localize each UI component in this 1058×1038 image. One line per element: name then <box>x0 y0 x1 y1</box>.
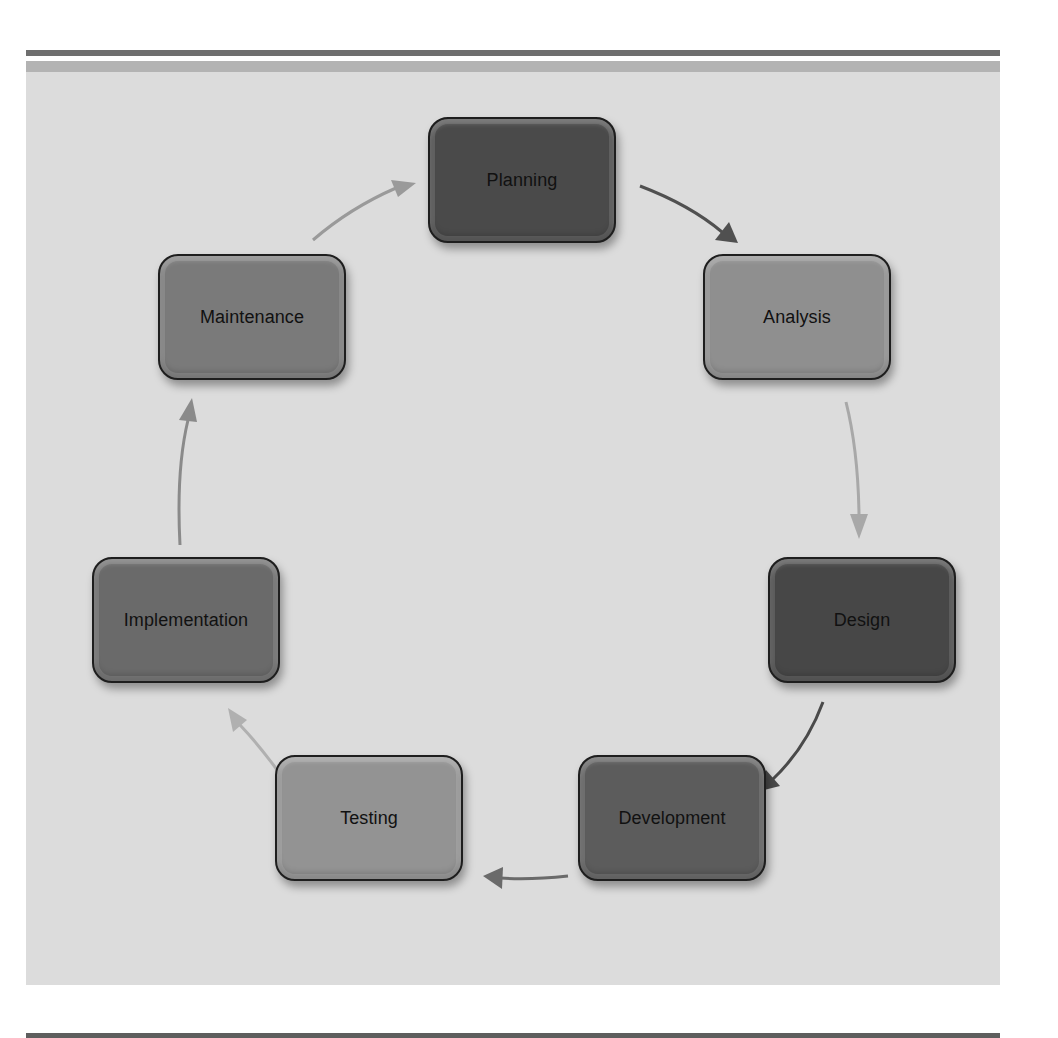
stage-analysis[interactable]: Analysis <box>703 254 891 380</box>
top-rule <box>26 50 1000 56</box>
stage-label: Development <box>618 808 725 829</box>
panel-header-band <box>26 61 1000 72</box>
stage-label: Testing <box>340 808 398 829</box>
stage-label: Analysis <box>763 307 831 328</box>
stage-development[interactable]: Development <box>578 755 766 881</box>
stage-label: Planning <box>487 170 558 191</box>
stage-maintenance[interactable]: Maintenance <box>158 254 346 380</box>
stage-planning[interactable]: Planning <box>428 117 616 243</box>
bottom-rule <box>26 1033 1000 1038</box>
stage-implementation[interactable]: Implementation <box>92 557 280 683</box>
stage-design[interactable]: Design <box>768 557 956 683</box>
stage-label: Implementation <box>124 610 248 631</box>
stage-testing[interactable]: Testing <box>275 755 463 881</box>
stage-label: Design <box>834 610 891 631</box>
stage-label: Maintenance <box>200 307 304 328</box>
